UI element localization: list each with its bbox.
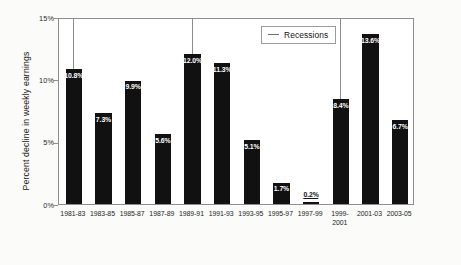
bar: 5.1% — [244, 140, 261, 204]
y-axis-tick-label: 5% — [24, 138, 54, 147]
x-axis-tick-label: 2003-05 — [381, 209, 417, 218]
bar-value-label: 12.0% — [183, 57, 202, 64]
y-axis-title-label: Percent decline in weekly earnings — [21, 52, 31, 191]
bar-value-label: 8.4% — [333, 102, 348, 109]
bar: 1.7% — [273, 183, 290, 204]
bar-value-label: 1.7% — [274, 185, 289, 192]
bar-value-label: 9.9% — [126, 83, 141, 90]
bar: 11.3% — [214, 63, 231, 204]
bar: 6.7% — [392, 120, 409, 204]
legend: Recessions — [261, 26, 336, 44]
bar-value-label: 10.8% — [64, 72, 83, 79]
bar — [303, 202, 320, 204]
y-axis-tick-mark — [53, 205, 58, 206]
bar: 10.8% — [66, 69, 83, 204]
bar-value-label: 6.7% — [393, 123, 408, 130]
bar-value-label: 7.3% — [96, 116, 111, 123]
plot-area: 10.8%7.3%9.9%5.6%12.0%11.3%5.1%1.7%0.2%8… — [58, 18, 414, 205]
bar: 12.0% — [184, 54, 201, 204]
y-axis-title: Percent decline in weekly earnings — [18, 18, 34, 224]
y-axis-tick-label: 0% — [24, 201, 54, 210]
bar-value-label: 11.3% — [213, 66, 232, 73]
bar-value-label: 0.2% — [304, 191, 319, 200]
y-axis-tick-label: 10% — [24, 76, 54, 85]
bar: 13.6% — [362, 34, 379, 204]
bar: 7.3% — [95, 113, 112, 204]
bar: 8.4% — [333, 99, 350, 204]
legend-item-label-recessions: Recessions — [284, 30, 328, 40]
bar-value-label: 13.6% — [361, 37, 380, 44]
bar: 5.6% — [155, 134, 172, 204]
recession-line-icon — [268, 34, 279, 36]
chart-container: Percent decline in weekly earnings 0%5%1… — [0, 0, 461, 265]
bar-value-label: 5.1% — [244, 143, 259, 150]
y-axis-tick-label: 15% — [24, 14, 54, 23]
bar-value-label: 5.6% — [155, 137, 170, 144]
bar: 9.9% — [125, 81, 142, 204]
